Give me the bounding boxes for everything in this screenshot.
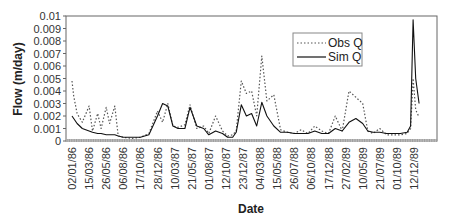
x-tick-label: 26/07/88 — [288, 147, 300, 190]
x-tick-label: 06/10/88 — [305, 147, 317, 190]
x-tick-label: 17/10/86 — [134, 147, 146, 190]
x-tick-label: 21/07/89 — [374, 147, 386, 190]
y-tick-label: 0.007 — [33, 48, 61, 60]
x-tick-label: 15/05/88 — [271, 147, 283, 190]
x-tick-label: 04/03/88 — [254, 147, 266, 190]
y-axis: 00.0010.0020.0030.0040.0050.0060.0070.00… — [33, 10, 66, 147]
x-tick-label: 06/08/86 — [117, 147, 129, 190]
x-tick-label: 12/10/87 — [220, 147, 232, 190]
x-tick-label: 02/01/86 — [66, 147, 78, 190]
y-tick-label: 0.006 — [33, 60, 61, 72]
y-tick-label: 0.002 — [33, 110, 61, 122]
x-tick-label: 17/12/88 — [323, 147, 335, 190]
x-tick-label: 27/02/89 — [340, 147, 352, 190]
y-tick-label: 0.005 — [33, 73, 61, 85]
x-tick-label: 15/03/86 — [83, 147, 95, 190]
plot-area — [66, 16, 437, 141]
x-tick-label: 23/12/87 — [237, 147, 249, 190]
x-tick-label: 01/10/89 — [391, 147, 403, 190]
x-tick-label: 10/03/87 — [169, 147, 181, 190]
x-tick-label: 21/05/87 — [186, 147, 198, 190]
x-axis-title: Date — [238, 202, 264, 216]
x-tick-label: 01/08/87 — [203, 147, 215, 190]
legend: Obs Q Sim Q — [293, 33, 363, 66]
legend-obs-label: Obs Q — [328, 36, 363, 50]
y-tick-label: 0.008 — [33, 35, 61, 47]
y-axis-title: Flow (m/day) — [11, 42, 25, 115]
x-tick-label: 10/05/89 — [357, 147, 369, 190]
flow-chart: 00.0010.0020.0030.0040.0050.0060.0070.00… — [0, 0, 449, 223]
x-tick-label: 28/12/86 — [152, 147, 164, 190]
y-tick-label: 0.001 — [33, 123, 61, 135]
x-tick-label: 12/12/89 — [408, 147, 420, 190]
legend-sim-label: Sim Q — [328, 50, 361, 64]
x-tick-label: 26/05/86 — [100, 147, 112, 190]
y-tick-label: 0.004 — [33, 85, 61, 97]
x-axis: 02/01/8615/03/8626/05/8606/08/8617/10/86… — [66, 139, 437, 190]
y-tick-label: 0.003 — [33, 98, 61, 110]
y-tick-label: 0 — [55, 135, 61, 147]
y-tick-label: 0.01 — [40, 10, 61, 22]
y-tick-label: 0.009 — [33, 23, 61, 35]
